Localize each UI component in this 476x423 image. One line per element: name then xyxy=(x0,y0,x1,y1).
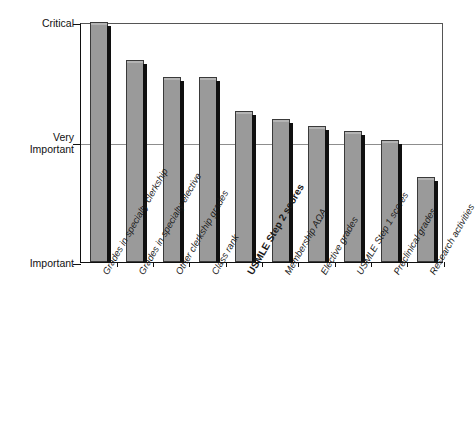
y-axis-tick xyxy=(73,24,81,25)
bar-column[interactable] xyxy=(90,22,108,262)
y-axis-tick xyxy=(73,144,81,145)
x-axis-category-labels: Grades in specialty clerkshipGrades in s… xyxy=(0,263,460,423)
y-axis-tick-label: Critical xyxy=(42,17,74,30)
bar[interactable] xyxy=(90,22,108,262)
y-axis-tick-label: Very Important xyxy=(30,131,74,156)
